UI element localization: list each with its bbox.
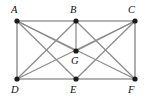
vertex-label-f: F xyxy=(128,85,134,96)
vertex-label-a: A xyxy=(11,5,17,16)
vertex-a xyxy=(14,18,19,23)
vertex-label-b: B xyxy=(70,5,76,16)
vertex-g xyxy=(73,48,78,53)
vertex-c xyxy=(132,18,137,23)
vertex-label-g: G xyxy=(71,56,79,67)
vertex-label-e: E xyxy=(70,85,76,96)
vertex-label-d: D xyxy=(11,85,19,96)
vertex-e xyxy=(73,76,78,81)
vertex-label-c: C xyxy=(128,5,135,16)
vertex-f xyxy=(132,76,137,81)
vertex-b xyxy=(73,18,78,23)
vertex-d xyxy=(14,76,19,81)
graph-figure: ABCDEFG xyxy=(0,0,146,100)
